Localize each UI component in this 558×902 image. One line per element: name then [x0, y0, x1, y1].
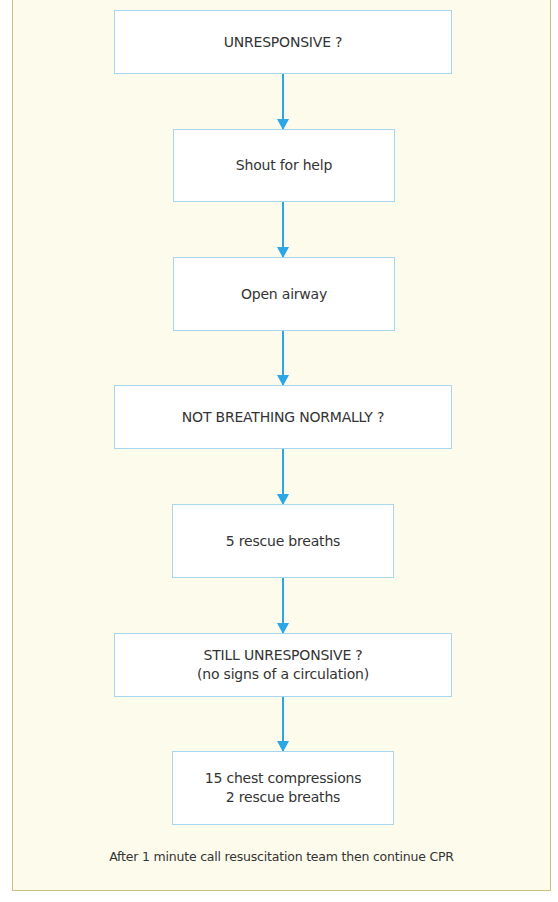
step-sublabel: (no signs of a circulation): [197, 665, 369, 684]
step-still-unresponsive: STILL UNRESPONSIVE ? (no signs of a circ…: [114, 633, 452, 697]
step-label: Shout for help: [236, 156, 332, 175]
step-rescue-breaths: 5 rescue breaths: [172, 504, 394, 578]
arrow-down-icon: [282, 202, 284, 257]
step-label: NOT BREATHING NORMALLY ?: [182, 408, 384, 427]
step-label: UNRESPONSIVE ?: [224, 33, 343, 52]
step-label: 15 chest compressions: [205, 769, 362, 788]
arrow-down-icon: [282, 74, 284, 129]
step-label: STILL UNRESPONSIVE ?: [203, 646, 362, 665]
arrow-down-icon: [282, 331, 284, 385]
step-sublabel: 2 rescue breaths: [226, 788, 340, 807]
step-not-breathing-normally: NOT BREATHING NORMALLY ?: [114, 385, 452, 449]
arrow-down-icon: [282, 578, 284, 633]
footer-note: After 1 minute call resuscitation team t…: [12, 849, 551, 864]
step-unresponsive: UNRESPONSIVE ?: [114, 10, 452, 74]
step-label: 5 rescue breaths: [226, 532, 340, 551]
step-compressions: 15 chest compressions 2 rescue breaths: [172, 751, 394, 825]
arrow-down-icon: [282, 697, 284, 751]
step-shout-for-help: Shout for help: [173, 129, 395, 202]
step-label: Open airway: [241, 285, 327, 304]
step-open-airway: Open airway: [173, 257, 395, 331]
arrow-down-icon: [282, 449, 284, 504]
